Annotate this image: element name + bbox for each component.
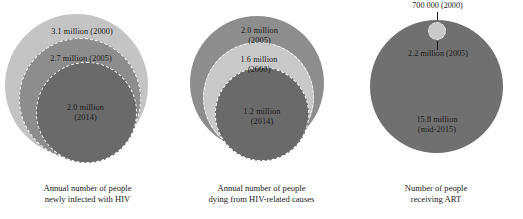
caption-line: receiving ART — [349, 194, 523, 205]
bubble-label-new-infections-2014: 2.0 million (2014) — [33, 103, 138, 124]
panel-caption-hiv-related-deaths: Annual number of people dying from HIV-r… — [174, 183, 349, 206]
bubble-label-new-infections-2005: 2.7 million (2005) — [16, 54, 146, 64]
bubble-label-line: 15.8 million — [377, 115, 497, 125]
bubble-label-line: (2005) — [202, 36, 317, 46]
bubble-label-line: (2014) — [207, 117, 317, 127]
bubble-label-art-2000: 700 000 (2000) — [371, 1, 504, 11]
bubble-group-receiving-art: 700 000 (2000) 2.2 million (2005) 15.8 m… — [349, 0, 523, 178]
caption-line: Annual number of people — [174, 183, 349, 194]
bubble-label-line: (mid-2015) — [377, 125, 497, 135]
bubble-label-deaths-2005: 2.0 million (2005) — [202, 26, 317, 47]
bubble-label-deaths-2014: 1.2 million (2014) — [207, 107, 317, 128]
bubble-art-2000 — [428, 22, 446, 40]
bubble-label-art-mid-2015: 15.8 million (mid-2015) — [377, 115, 497, 136]
bubble-chart-figure: 3.1 million (2000) 2.7 million (2005) 2.… — [0, 0, 523, 219]
caption-line: newly infected with HIV — [0, 194, 175, 205]
bubble-label-line: 2.2 million (2005) — [408, 49, 468, 58]
bubble-label-line: 1.2 million — [207, 107, 317, 117]
bubble-label-deaths-2000: 1.6 million (2000) — [204, 55, 314, 76]
bubble-label-line: (2014) — [33, 113, 138, 123]
bubble-label-line: 2.0 million — [202, 26, 317, 36]
bubble-label-line: 1.6 million — [204, 55, 314, 65]
caption-line: Number of people — [349, 183, 523, 194]
bubble-label-line: (2000) — [204, 65, 314, 75]
bubble-label-line: 3.1 million (2000) — [51, 27, 113, 36]
bubble-label-art-2005: 2.2 million (2005) — [363, 49, 513, 59]
bubble-label-line: 700 000 (2000) — [412, 1, 462, 10]
panel-caption-receiving-art: Number of people receiving ART — [349, 183, 523, 206]
caption-line: dying from HIV-related causes — [174, 194, 349, 205]
panel-new-infections: 3.1 million (2000) 2.7 million (2005) 2.… — [0, 0, 175, 219]
bubble-group-new-infections: 3.1 million (2000) 2.7 million (2005) 2.… — [0, 0, 175, 178]
bubble-label-line: 2.7 million (2005) — [50, 54, 112, 63]
panel-hiv-related-deaths: 2.0 million (2005) 1.6 million (2000) 1.… — [174, 0, 349, 219]
panel-caption-new-infections: Annual number of people newly infected w… — [0, 183, 175, 206]
bubble-group-hiv-related-deaths: 2.0 million (2005) 1.6 million (2000) 1.… — [174, 0, 349, 178]
caption-line: Annual number of people — [0, 183, 175, 194]
bubble-label-new-infections-2000: 3.1 million (2000) — [22, 27, 142, 37]
panel-receiving-art: 700 000 (2000) 2.2 million (2005) 15.8 m… — [349, 0, 523, 219]
bubble-label-line: 2.0 million — [33, 103, 138, 113]
